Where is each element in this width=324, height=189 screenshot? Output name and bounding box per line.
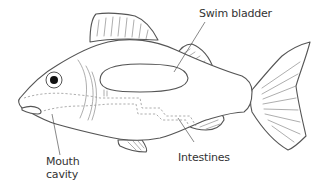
eye [46,72,62,88]
tail-fin [251,42,311,150]
dorsal-fin [90,13,158,42]
label-mouth-cavity-line1: Mouth [46,155,79,168]
label-intestines: Intestines [178,151,230,164]
pelvic-fin [118,140,147,152]
label-swim-bladder: Swim bladder [199,7,272,20]
label-mouth-cavity-line2: cavity [46,168,78,181]
